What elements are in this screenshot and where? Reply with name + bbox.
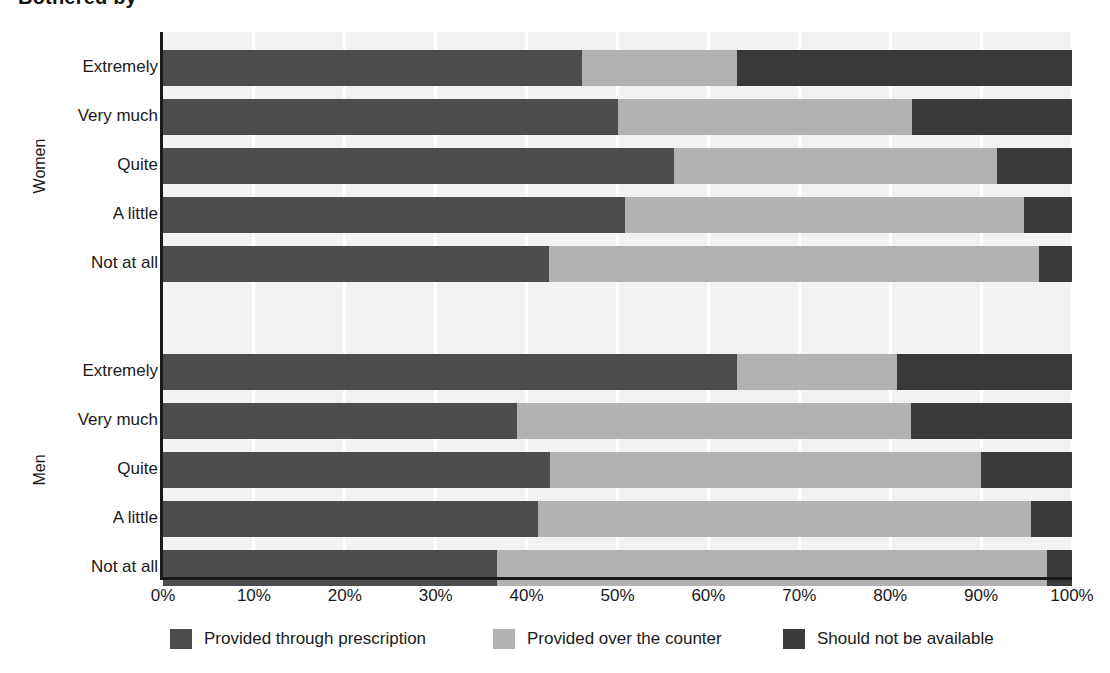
category-label-women-very-much: Very much <box>18 106 158 126</box>
bar-segment-provided-over-the-counter <box>538 501 1032 537</box>
x-tick-30: 30% <box>401 586 471 606</box>
bar-women-not-at-all <box>163 246 1072 282</box>
x-tick-0: 0% <box>128 586 198 606</box>
category-label-women-not-at-all: Not at all <box>18 253 158 273</box>
bar-segment-provided-through-prescription <box>163 99 618 135</box>
chart-legend: Provided through prescriptionProvided ov… <box>163 626 1072 656</box>
legend-item-2[interactable]: Should not be available <box>783 626 994 652</box>
bar-segment-provided-over-the-counter <box>737 354 897 390</box>
category-label-men-extremely: Extremely <box>18 361 158 381</box>
bar-segment-provided-through-prescription <box>163 550 497 586</box>
bar-segment-provided-through-prescription <box>163 197 625 233</box>
bar-segment-provided-through-prescription <box>163 452 550 488</box>
bar-segment-provided-over-the-counter <box>549 246 1039 282</box>
bar-segment-should-not-be-available <box>737 50 1072 86</box>
x-tick-60: 60% <box>673 586 743 606</box>
bar-segment-provided-over-the-counter <box>550 452 981 488</box>
legend-item-0[interactable]: Provided through prescription <box>170 626 426 652</box>
category-label-women-a-little: A little <box>18 204 158 224</box>
legend-label-2: Should not be available <box>817 629 994 649</box>
x-tick-70: 70% <box>764 586 834 606</box>
category-label-women-extremely: Extremely <box>18 57 158 77</box>
bar-segment-should-not-be-available <box>911 403 1072 439</box>
bar-men-extremely <box>163 354 1072 390</box>
bar-segment-provided-over-the-counter <box>674 148 997 184</box>
bar-women-quite <box>163 148 1072 184</box>
bar-women-extremely <box>163 50 1072 86</box>
bar-segment-provided-through-prescription <box>163 403 517 439</box>
bar-segment-provided-over-the-counter <box>618 99 912 135</box>
legend-swatch-icon-0 <box>170 629 192 649</box>
legend-label-0: Provided through prescription <box>204 629 426 649</box>
legend-item-1[interactable]: Provided over the counter <box>493 626 722 652</box>
bar-men-quite <box>163 452 1072 488</box>
bar-men-not-at-all <box>163 550 1072 586</box>
bar-segment-should-not-be-available <box>1039 246 1072 282</box>
category-label-men-a-little: A little <box>18 508 158 528</box>
x-tick-40: 40% <box>492 586 562 606</box>
category-label-men-very-much: Very much <box>18 410 158 430</box>
bar-men-a-little <box>163 501 1072 537</box>
legend-label-1: Provided over the counter <box>527 629 722 649</box>
x-tick-50: 50% <box>583 586 653 606</box>
bar-segment-should-not-be-available <box>912 99 1072 135</box>
bar-women-a-little <box>163 197 1072 233</box>
x-tick-20: 20% <box>310 586 380 606</box>
bar-segment-provided-through-prescription <box>163 148 674 184</box>
bar-segment-provided-through-prescription <box>163 50 582 86</box>
bar-segment-provided-over-the-counter <box>625 197 1024 233</box>
category-axis-labels: ExtremelyVery muchQuiteA littleNot at al… <box>10 32 158 577</box>
chart-figure: Bothered by ExtremelyVery muchQuiteA lit… <box>0 0 1110 673</box>
legend-swatch-icon-1 <box>493 629 515 649</box>
bar-segment-provided-over-the-counter <box>582 50 737 86</box>
plot-area <box>163 32 1072 577</box>
group-label-men: Men <box>28 458 52 482</box>
category-label-men-not-at-all: Not at all <box>18 557 158 577</box>
chart-title: Bothered by <box>18 0 137 9</box>
bar-segment-provided-through-prescription <box>163 354 737 390</box>
bar-men-very-much <box>163 403 1072 439</box>
x-tick-80: 80% <box>855 586 925 606</box>
bar-segment-provided-through-prescription <box>163 246 549 282</box>
bar-segment-should-not-be-available <box>897 354 1072 390</box>
bar-segment-provided-over-the-counter <box>497 550 1048 586</box>
x-tick-10: 10% <box>219 586 289 606</box>
bar-segment-should-not-be-available <box>1031 501 1072 537</box>
bar-segment-provided-over-the-counter <box>517 403 912 439</box>
bar-segment-should-not-be-available <box>1047 550 1072 586</box>
bar-women-very-much <box>163 99 1072 135</box>
legend-swatch-icon-2 <box>783 629 805 649</box>
bar-segment-should-not-be-available <box>1024 197 1072 233</box>
group-label-women: Women <box>28 154 52 178</box>
bar-segment-should-not-be-available <box>997 148 1072 184</box>
x-tick-90: 90% <box>946 586 1016 606</box>
x-tick-100: 100% <box>1037 586 1107 606</box>
y-axis-line <box>160 32 163 577</box>
bar-segment-provided-through-prescription <box>163 501 538 537</box>
x-axis-line <box>160 577 1072 580</box>
bar-segment-should-not-be-available <box>981 452 1072 488</box>
